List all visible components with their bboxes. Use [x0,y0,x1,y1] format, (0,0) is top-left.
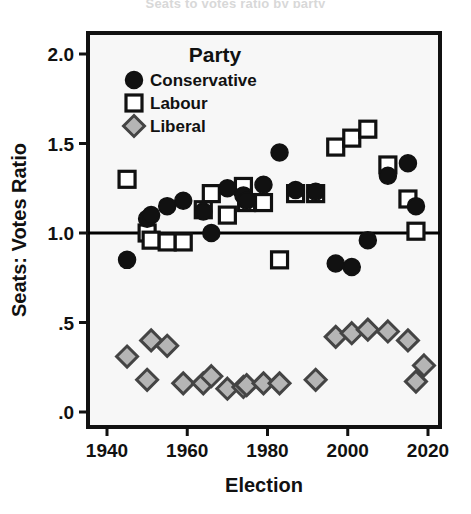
point-square [360,121,376,137]
y-tick-label: .0 [58,402,74,423]
point-circle [343,259,360,276]
y-tick-label: 1.5 [48,134,75,155]
point-circle [359,232,376,249]
point-square [175,234,191,250]
point-square [126,95,142,111]
point-square [255,195,271,211]
x-axis-title: Election [225,474,303,496]
y-tick-label: 1.0 [48,223,74,244]
point-circle [175,192,192,209]
y-tick-label: .5 [58,313,74,334]
y-tick-label: 2.0 [48,44,74,65]
point-square [272,252,288,268]
legend-entry-label: Liberal [150,117,206,136]
point-circle [407,198,424,215]
legend-entry-label: Labour [150,94,208,113]
point-square [328,139,344,155]
point-circle [307,183,324,200]
point-circle [126,72,143,89]
legend-entry-label: Conservative [150,71,257,90]
legend-title: Party [189,43,242,66]
point-circle [255,176,272,193]
point-circle [219,180,236,197]
point-circle [238,192,255,209]
y-axis-title: Seats: Votes Ratio [8,143,30,317]
point-square [203,186,219,202]
x-tick-label: 2000 [327,440,369,461]
legend-entry-labour[interactable]: Labour [126,94,208,113]
x-tick-label: 2020 [407,440,449,461]
point-square [119,171,135,187]
x-tick-label: 1960 [166,440,208,461]
point-square [159,234,175,250]
point-circle [159,198,176,215]
scatter-plot-svg: 19401960198020002020.0.51.01.52.0 Party … [0,0,471,514]
point-circle [287,182,304,199]
point-square [219,207,235,223]
point-circle [327,255,344,272]
point-square [408,223,424,239]
point-circle [203,225,220,242]
point-square [344,130,360,146]
point-square [143,232,159,248]
legend-entry-liberal[interactable]: Liberal [124,116,206,137]
point-circle [195,203,212,220]
point-circle [271,144,288,161]
chart-figure: Seats to votes ratio by party 1940196019… [0,0,471,514]
point-circle [119,251,136,268]
point-circle [379,167,396,184]
x-tick-label: 1980 [246,440,288,461]
point-circle [143,207,160,224]
x-tick-label: 1940 [86,440,128,461]
point-circle [399,155,416,172]
